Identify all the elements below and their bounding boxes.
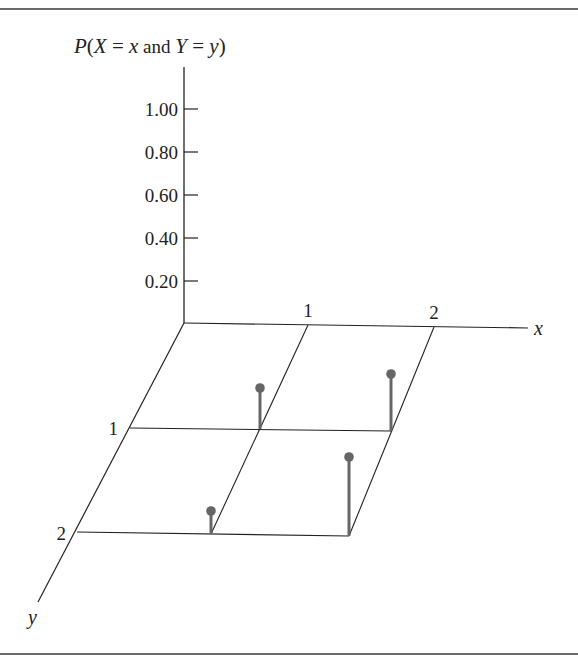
marker-x1-y2: [206, 506, 216, 516]
y-axis-label: y: [26, 606, 37, 629]
z-axis-ticks: [184, 109, 198, 281]
marker-x2-y1: [386, 369, 396, 379]
x-tick-label: 1: [303, 300, 313, 321]
y-axis-line: [38, 323, 184, 602]
z-tick-label: 0.60: [145, 185, 178, 206]
z-axis-title: P(X = x and Y = y): [73, 34, 226, 58]
z-axis-tick-labels: 0.20 0.40 0.60 0.80 1.00: [145, 99, 178, 292]
joint-probability-figure: P(X = x and Y = y) 0.20 0.40 0.60 0.80 1…: [0, 0, 578, 666]
y-tick-label: 2: [57, 523, 67, 544]
base-grid: [77, 325, 434, 536]
x-axis-line: [184, 323, 528, 328]
probability-markers: [206, 369, 396, 516]
z-tick-label: 0.80: [145, 142, 178, 163]
grid-line-x2: [349, 327, 434, 536]
z-tick-label: 0.20: [145, 271, 178, 292]
chart-canvas: P(X = x and Y = y) 0.20 0.40 0.60 0.80 1…: [0, 0, 578, 666]
grid-line-y2: [77, 532, 349, 536]
marker-x2-y2: [344, 452, 354, 462]
z-tick-label: 0.40: [145, 228, 178, 249]
marker-x1-y1: [255, 383, 265, 393]
x-axis-label: x: [533, 317, 543, 339]
x-tick-label: 2: [429, 302, 439, 323]
probability-stems: [211, 374, 391, 536]
z-tick-label: 1.00: [145, 99, 178, 120]
y-tick-label: 1: [109, 418, 119, 439]
